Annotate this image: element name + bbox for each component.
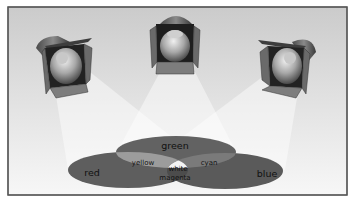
label-white: white xyxy=(168,165,187,173)
label-blue: blue xyxy=(257,168,278,179)
diagram-canvas: green red blue yellow cyan white magenta xyxy=(0,0,355,204)
label-cyan: cyan xyxy=(201,159,218,167)
label-red: red xyxy=(84,167,100,178)
label-yellow: yellow xyxy=(132,159,155,167)
spotlight-center xyxy=(150,16,200,74)
label-magenta: magenta xyxy=(159,174,190,182)
label-green: green xyxy=(161,140,188,151)
